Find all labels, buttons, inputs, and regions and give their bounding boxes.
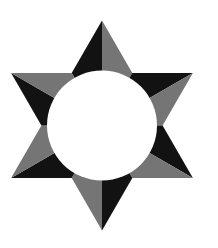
center-circle [47, 71, 157, 181]
hexagram-star-graphic [0, 0, 218, 248]
star-figure [0, 0, 218, 248]
